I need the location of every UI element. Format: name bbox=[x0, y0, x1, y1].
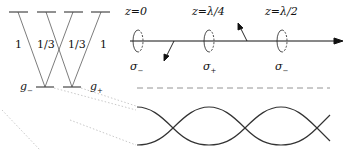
transition-label: 1 bbox=[100, 38, 107, 51]
projection-lines bbox=[2, 88, 136, 150]
position-label: z=λ/4 bbox=[192, 5, 225, 18]
transition-label: 1/3 bbox=[37, 38, 55, 51]
excited-levels bbox=[9, 12, 110, 87]
diagram-graphics bbox=[0, 0, 346, 152]
standing-waves bbox=[137, 107, 330, 145]
polarization-label: σ− bbox=[275, 60, 288, 75]
ground-label-plus: g+ bbox=[90, 80, 103, 95]
polarization-label: σ− bbox=[130, 60, 143, 75]
position-label: z=0 bbox=[125, 5, 147, 18]
transition-lines bbox=[18, 12, 101, 87]
polarization-label: σ+ bbox=[203, 60, 216, 75]
transition-label: 1 bbox=[15, 38, 22, 51]
ground-label-minus: g− bbox=[20, 80, 33, 95]
axis bbox=[130, 38, 343, 44]
optical-lattice-diagram: 1 1/3 1/3 1 g− g+ z=0 z=λ/4 z=λ/2 σ− σ+ … bbox=[0, 0, 346, 152]
transition-label: 1/3 bbox=[68, 38, 86, 51]
position-label: z=λ/2 bbox=[265, 5, 298, 18]
field-arrows bbox=[164, 23, 247, 61]
